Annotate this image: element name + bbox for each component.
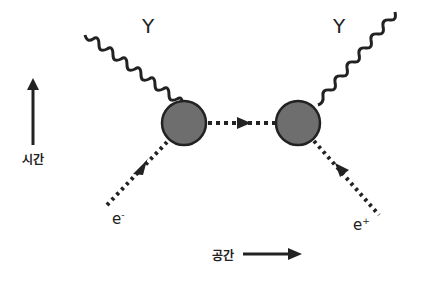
propagator-line: [208, 117, 277, 129]
electron-label: e-: [112, 210, 124, 228]
photon-left-wavy-line: [85, 35, 182, 106]
photon-right-label: Y: [333, 14, 345, 38]
positron-out-line: [314, 141, 379, 215]
positron-label: e+: [353, 216, 370, 234]
vertex-right: [276, 101, 320, 145]
vertex-left: [162, 101, 206, 145]
photon-left-label: Y: [142, 14, 154, 38]
time-axis-arrow-icon: [27, 78, 39, 145]
time-axis-label: 시간: [22, 150, 44, 167]
feynman-diagram-canvas: [0, 0, 424, 281]
space-axis-arrow-icon: [243, 248, 302, 260]
space-axis-label: 공간: [212, 246, 234, 263]
photon-right-wavy-line: [318, 12, 395, 105]
electron-in-line: [107, 141, 168, 205]
